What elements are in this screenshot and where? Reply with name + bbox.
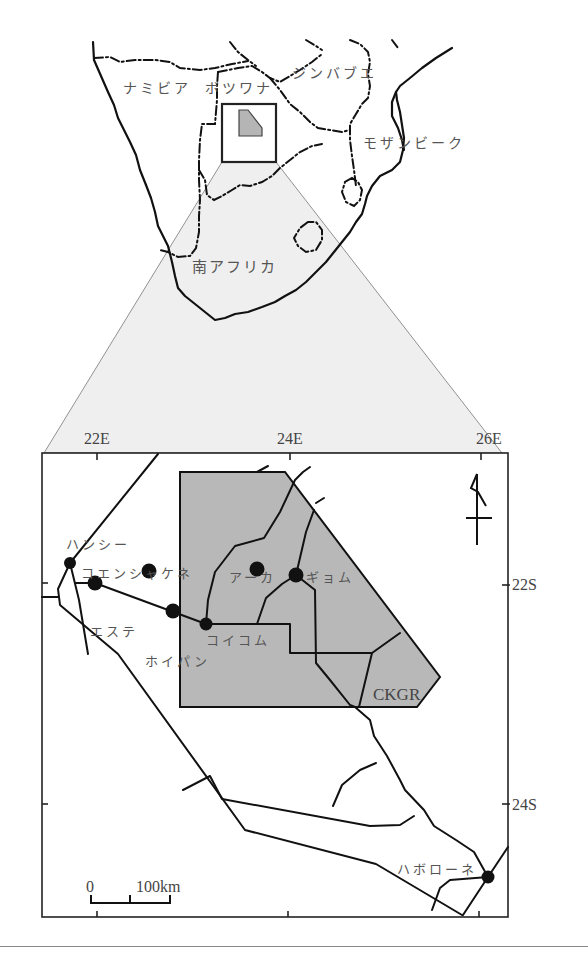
scale-label-100km: 100km xyxy=(136,878,181,895)
town-marker-hoipan xyxy=(166,604,181,619)
zimbabwe-mozambique-border xyxy=(350,40,370,186)
namibia-angola-border xyxy=(94,57,248,70)
town-marker-hanzi xyxy=(64,557,76,569)
label-zimbabwe: ジンバブエ xyxy=(292,65,377,81)
mozambique-north-border xyxy=(306,40,322,50)
label-aaka: アーカ xyxy=(229,570,276,585)
label-koikom: コイコム xyxy=(206,633,270,648)
zoom-wedge xyxy=(44,162,502,453)
inset-study-area xyxy=(239,110,262,136)
swaziland-border xyxy=(342,178,362,206)
malawi-border xyxy=(392,40,398,48)
lon-label-26e: 26E xyxy=(476,430,502,447)
caption-divider xyxy=(0,946,588,947)
label-hanzi: ハンシー xyxy=(66,537,130,552)
label-gaborone: ハボローネ xyxy=(397,862,477,877)
label-namibia: ナミビア xyxy=(123,80,191,96)
lon-label-24e: 24E xyxy=(277,430,303,447)
town-marker-koikom xyxy=(200,618,213,631)
label-ckgr: CKGR xyxy=(373,685,421,704)
label-koenshakene: コエンシャケネ xyxy=(81,566,193,581)
lat-label-22s: 22S xyxy=(512,576,537,593)
label-hoipan: ホイパン xyxy=(145,654,210,669)
label-mozambique: モザンビーク xyxy=(363,135,465,151)
botswana-zimbabwe-border xyxy=(270,78,350,132)
lon-label-22e: 22E xyxy=(84,430,110,447)
label-gyom: ギョム xyxy=(306,570,354,585)
lat-label-24s: 24S xyxy=(512,796,537,813)
town-marker-gyom xyxy=(289,568,304,583)
detail-map: 22E 24E 26E 22S 24S CKGR xyxy=(42,430,537,917)
label-south-africa: 南アフリカ xyxy=(192,258,277,276)
label-esute: エステ xyxy=(90,624,138,639)
scale-label-zero: 0 xyxy=(86,878,94,895)
label-botswana: ボツワナ xyxy=(205,80,273,96)
town-marker-gaborone xyxy=(482,871,495,884)
map-figure: ナミビア ボツワナ ジンバブエ モザンビーク 南アフリカ 22E 24E 26E… xyxy=(0,0,588,966)
